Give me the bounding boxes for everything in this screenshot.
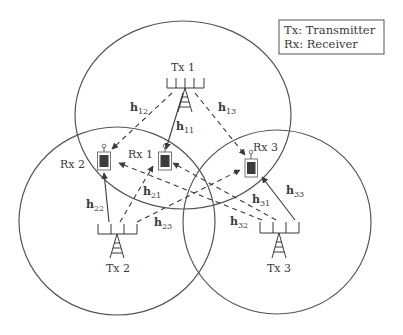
legend-tx: Tx: Transmitter xyxy=(284,23,376,37)
link-h32 xyxy=(119,163,262,220)
label-h33: h33 xyxy=(286,184,304,199)
label-h21: h21 xyxy=(143,185,161,200)
transmitter-tx1: Tx 1 xyxy=(167,61,204,112)
receiver-rx1: Rx 1 xyxy=(128,144,172,170)
antenna-array-icon xyxy=(167,78,204,88)
tower-icon xyxy=(110,234,124,258)
receiver-rx2: Rx 2 xyxy=(60,144,111,171)
label-h31: h31 xyxy=(252,193,270,208)
rx3-label: Rx 3 xyxy=(253,141,278,154)
label-h12: h12 xyxy=(130,101,148,116)
mobile-device-icon xyxy=(245,150,258,177)
tx3-label: Tx 3 xyxy=(267,262,291,275)
rx2-label: Rx 2 xyxy=(60,158,85,171)
legend-rx: Rx: Receiver xyxy=(284,37,358,51)
tx1-label: Tx 1 xyxy=(171,61,195,74)
antenna-array-icon xyxy=(98,224,137,234)
link-h12 xyxy=(112,93,172,149)
coverage-circle-tx1 xyxy=(75,21,291,209)
tx2-label: Tx 2 xyxy=(106,262,130,275)
transmitter-tx2: Tx 2 xyxy=(98,224,137,275)
interference-channel-diagram: Tx: Transmitter Rx: Receiver Tx 1 Tx xyxy=(0,0,403,335)
label-h22: h22 xyxy=(86,198,104,213)
tower-icon xyxy=(272,233,286,258)
label-h13: h13 xyxy=(218,101,236,116)
mobile-device-icon xyxy=(98,144,111,170)
receiver-rx3: Rx 3 xyxy=(245,141,278,177)
coverage-circle-tx3 xyxy=(183,130,371,314)
link-h22 xyxy=(104,173,109,222)
mobile-device-icon xyxy=(159,144,172,170)
legend: Tx: Transmitter Rx: Receiver xyxy=(279,20,384,54)
coverage-circle-tx2 xyxy=(19,127,215,315)
antenna-array-icon xyxy=(260,222,299,233)
tower-icon xyxy=(178,88,192,112)
label-h23: h23 xyxy=(154,216,172,231)
label-h11: h11 xyxy=(176,120,194,135)
label-h32: h32 xyxy=(230,215,248,230)
rx1-label: Rx 1 xyxy=(128,148,153,161)
transmitter-tx3: Tx 3 xyxy=(260,222,299,275)
